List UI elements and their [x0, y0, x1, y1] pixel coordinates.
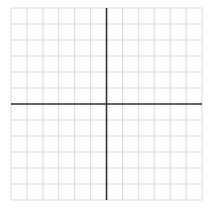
grid-canvas: [0, 0, 208, 211]
coordinate-grid: [0, 0, 208, 211]
